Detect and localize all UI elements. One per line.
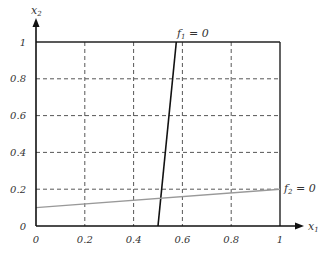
chart: 00.20.40.60.8100.20.40.60.81 x1x2f1 = 0f… bbox=[0, 0, 320, 258]
x-axis-arrow-icon bbox=[295, 223, 304, 230]
x-tick-label: 0.2 bbox=[77, 234, 93, 245]
series-group bbox=[36, 42, 280, 226]
y-tick-label: 0.2 bbox=[10, 184, 26, 195]
series-line-2 bbox=[36, 189, 280, 207]
y-tick-label: 1 bbox=[20, 37, 26, 48]
annotations: x1x2f1 = 0f2 = 0 bbox=[31, 4, 319, 234]
y-tick-label: 0.4 bbox=[10, 147, 26, 158]
x-axis-label: x1 bbox=[308, 220, 319, 234]
x-tick-label: 0.6 bbox=[174, 234, 191, 245]
y-axis-arrow-icon bbox=[33, 18, 40, 27]
y-tick-label: 0 bbox=[20, 221, 27, 232]
y-tick-label: 0.8 bbox=[10, 73, 26, 84]
y-tick-label: 0.6 bbox=[10, 110, 27, 121]
series-label-f1: f1 = 0 bbox=[176, 27, 209, 41]
x-tick-label: 1 bbox=[277, 234, 283, 245]
tick-labels: 00.20.40.60.8100.20.40.60.81 bbox=[10, 37, 283, 246]
series-label-f2: f2 = 0 bbox=[283, 182, 316, 196]
x-tick-label: 0.8 bbox=[223, 234, 239, 245]
x-tick-label: 0 bbox=[33, 234, 40, 245]
x-tick-label: 0.4 bbox=[126, 234, 142, 245]
y-axis-label: x2 bbox=[31, 4, 42, 18]
